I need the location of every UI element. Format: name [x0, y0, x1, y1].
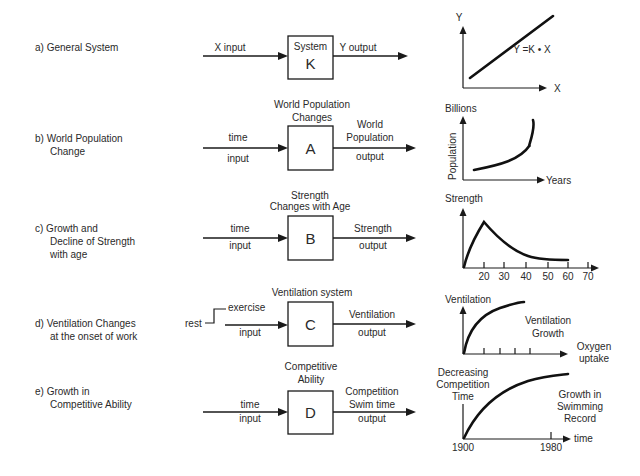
arrowhead-icon	[278, 52, 288, 60]
row-c-input-time: time	[231, 223, 250, 234]
row-d-output-line2: output	[358, 327, 386, 338]
row-e-output-line2: Swim time	[349, 399, 396, 410]
row-c-graph: Strength 20 30 40 50 60 70	[445, 193, 599, 282]
row-a-graph: Y X Y =K • X	[456, 12, 561, 94]
arrowhead-icon	[537, 177, 545, 184]
x-tick-label: 1980	[540, 442, 563, 453]
row-e-graph-x-label: time	[574, 433, 593, 444]
arrowhead-icon	[278, 144, 288, 152]
x-ticks	[484, 348, 530, 354]
exponential-curve	[474, 120, 534, 170]
x-tick-label: 60	[562, 271, 574, 282]
row-e-input-label: input	[239, 413, 261, 424]
row-e-label-line2: Competitive Ability	[50, 399, 132, 410]
row-b-input-time: time	[229, 132, 248, 143]
x-ticks	[484, 262, 588, 268]
arrowhead-icon	[278, 408, 288, 416]
row-a-label: a) General System	[35, 42, 118, 53]
arrowhead-icon	[278, 234, 288, 242]
row-d-graph: Ventilation Ventilation Growth Oxygen up…	[445, 294, 611, 364]
row-d-box-letter: C	[305, 316, 316, 333]
x-tick-label: 50	[542, 271, 554, 282]
ventilation-curve	[464, 302, 524, 353]
arrowhead-icon	[460, 208, 467, 216]
row-b-graph-y-label: Billions	[445, 103, 477, 114]
arrowhead-icon	[460, 306, 467, 314]
row-a-output-label: Y output	[339, 42, 376, 53]
row-b-output-line2: Population	[346, 132, 393, 143]
row-c-graph-y-label: Strength	[445, 193, 483, 204]
row-c-label-line3: with age	[49, 249, 88, 260]
row-d-input-exercise: exercise	[228, 302, 266, 313]
row-a-graph-y-label: Y	[456, 12, 463, 23]
step-function-line	[205, 309, 226, 323]
row-a-general-system: a) General System X input System K Y out…	[35, 12, 561, 94]
row-d-graph-annotation-line2: Growth	[532, 328, 564, 339]
systems-diagram: a) General System X input System K Y out…	[0, 0, 640, 476]
row-e-output-line1: Competition	[345, 386, 398, 397]
x-tick-label: 20	[478, 271, 490, 282]
row-c-input-label: input	[229, 240, 251, 251]
arrowhead-icon	[406, 408, 416, 416]
row-c-output-line2: output	[359, 240, 387, 251]
row-e-graph-y-label-line1: Decreasing	[438, 367, 489, 378]
row-b-box-title-line1: World Population	[274, 99, 350, 110]
row-d-label-line2: at the onset of work	[50, 331, 138, 342]
row-c-box-title-line2: Changes with Age	[270, 201, 351, 212]
row-d-input-rest: rest	[185, 318, 202, 329]
row-c-box-title-line1: Strength	[291, 190, 329, 201]
row-e-graph: Decreasing Competition Time 1900 1980 ti…	[436, 367, 603, 453]
row-c-label-line2: Decline of Strength	[50, 236, 135, 247]
x-tick-label: 1900	[452, 442, 475, 453]
row-b-graph: Billions Population Years	[445, 103, 571, 186]
row-b-input-label: input	[227, 153, 249, 164]
arrowhead-icon	[460, 26, 467, 34]
row-d-graph-y-label: Ventilation	[445, 294, 491, 305]
row-b-graph-rotated-label: Population	[447, 133, 458, 180]
row-b-world-population: b) World Population Change time input Wo…	[35, 99, 571, 186]
row-b-graph-x-label: Years	[546, 175, 571, 186]
row-e-graph-annotation-line2: Swimming	[557, 401, 603, 412]
row-b-output-line3: output	[356, 151, 384, 162]
row-d-graph-x-label-line1: Oxygen	[577, 341, 611, 352]
row-d-label-line1: d) Ventilation Changes	[35, 318, 136, 329]
strength-curve	[464, 222, 568, 267]
row-e-box-title-line2: Ability	[298, 374, 325, 385]
row-e-box-letter: D	[305, 404, 316, 421]
arrowhead-icon	[406, 234, 416, 242]
arrowhead-icon	[406, 320, 416, 328]
row-a-box-title: System	[294, 41, 327, 52]
row-c-output-line1: Strength	[354, 223, 392, 234]
row-e-box-title-line1: Competitive	[285, 361, 338, 372]
arrowhead-icon	[406, 144, 416, 152]
row-b-box-title-line2: Changes	[292, 112, 332, 123]
arrowhead-icon	[460, 116, 467, 124]
row-d-graph-x-label-line2: uptake	[579, 353, 609, 364]
row-e-input-time: time	[241, 399, 260, 410]
row-e-competitive-ability: e) Growth in Competitive Ability time in…	[35, 361, 603, 453]
arrowhead-icon	[398, 52, 408, 60]
row-e-output-line3: output	[358, 413, 386, 424]
row-e-graph-annotation-line1: Growth in	[559, 389, 602, 400]
row-d-input-label: input	[239, 327, 261, 338]
row-e-label-line1: e) Growth in	[35, 386, 89, 397]
row-d-ventilation: d) Ventilation Changes at the onset of w…	[35, 287, 611, 364]
row-c-box-letter: B	[305, 230, 315, 247]
row-e-graph-annotation-line3: Record	[564, 413, 596, 424]
row-a-box-letter: K	[305, 55, 315, 72]
row-b-box-letter: A	[305, 140, 315, 157]
row-d-output-line1: Ventilation	[349, 309, 395, 320]
row-d-box-title: Ventilation system	[272, 287, 353, 298]
x-tick-label: 70	[582, 271, 594, 282]
x-tick-label: 30	[498, 271, 510, 282]
row-d-graph-annotation-line1: Ventilation	[525, 315, 571, 326]
arrowhead-icon	[563, 436, 571, 443]
row-a-graph-annotation: Y =K • X	[513, 44, 551, 55]
row-b-label-line2: Change	[50, 146, 85, 157]
row-e-graph-y-label-line3: Time	[452, 391, 474, 402]
arrowhead-icon	[278, 321, 288, 329]
arrowhead-icon	[560, 351, 568, 358]
row-c-label-line1: c) Growth and	[35, 223, 98, 234]
row-b-output-line1: World	[357, 119, 383, 130]
row-e-graph-y-label-line2: Competition	[436, 379, 489, 390]
